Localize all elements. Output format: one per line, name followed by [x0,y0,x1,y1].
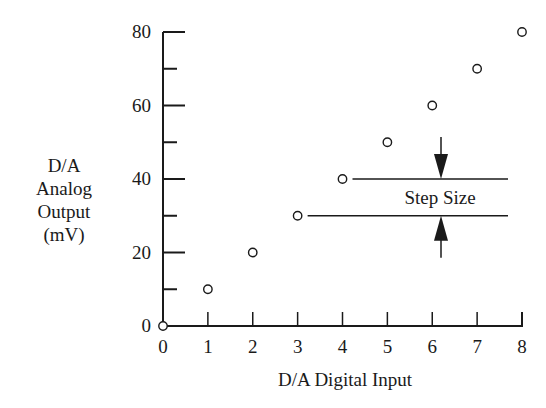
x-tick-label: 6 [428,336,438,357]
y-axis-title-line: Output [38,201,92,222]
step-size-annotation: Step Size [308,137,508,258]
y-tick-label: 20 [132,242,151,263]
scatter-chart: 020406080 012345678 Step Size D/AAnalogO… [0,0,546,408]
data-point [293,212,301,220]
y-tick-label: 0 [142,315,152,336]
y-axis-title: D/AAnalogOutput(mV) [36,155,92,246]
y-tick-labels: 020406080 [132,21,151,336]
data-point [428,101,436,109]
x-axis-title: D/A Digital Input [278,369,413,390]
x-tick-label: 7 [472,336,482,357]
x-tick-label: 3 [293,336,303,357]
x-tick-labels: 012345678 [158,336,527,357]
x-tick-label: 2 [248,336,258,357]
x-tick-label: 8 [517,336,527,357]
y-axis-title-line: D/A [48,155,81,176]
data-point [204,285,212,293]
step-size-label: Step Size [404,187,475,208]
x-tick-label: 4 [338,336,348,357]
x-tick-label: 0 [158,336,168,357]
data-point [473,65,481,73]
x-tick-label: 5 [383,336,393,357]
y-axis-title-line: Analog [36,178,92,199]
data-point [338,175,346,183]
y-tick-label: 80 [132,21,151,42]
y-tick-label: 40 [132,168,151,189]
y-tick-label: 60 [132,95,151,116]
data-point [383,138,391,146]
y-axis-title-line: (mV) [43,224,84,246]
data-point [518,28,526,36]
x-tick-label: 1 [203,336,213,357]
data-point [249,248,257,256]
data-point [159,322,167,330]
arrow-down-icon [434,154,448,179]
